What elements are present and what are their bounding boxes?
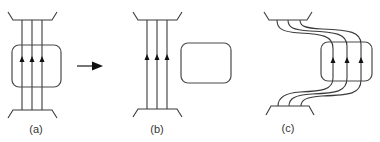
up-arrow-icon <box>331 57 336 63</box>
bottom-bracket-c <box>266 106 314 115</box>
transition-arrow <box>77 62 103 71</box>
top-bracket-a <box>8 12 57 20</box>
up-arrow-icon <box>165 54 170 60</box>
up-arrow-icon <box>40 56 45 62</box>
panel-b <box>133 12 231 117</box>
up-arrow-icon <box>145 54 150 60</box>
panel-a <box>8 12 61 118</box>
bottom-bracket-a <box>8 110 57 118</box>
up-arrow-icon <box>155 54 160 60</box>
up-arrow-icon <box>30 56 35 62</box>
diagram-canvas <box>0 0 380 142</box>
right-arrow-icon <box>92 62 103 71</box>
up-arrow-icon <box>359 57 364 63</box>
up-arrow-icon <box>20 56 25 62</box>
bottom-bracket-b <box>133 109 182 117</box>
top-bracket-c <box>264 12 312 20</box>
box-b <box>181 43 231 83</box>
panel-c <box>264 12 372 115</box>
panel-label-b: (b) <box>150 123 163 135</box>
panel-label-c: (c) <box>282 122 295 134</box>
box-a <box>12 45 61 87</box>
panel-label-a: (a) <box>29 123 42 135</box>
top-bracket-b <box>133 12 182 20</box>
up-arrow-icon <box>345 57 350 63</box>
